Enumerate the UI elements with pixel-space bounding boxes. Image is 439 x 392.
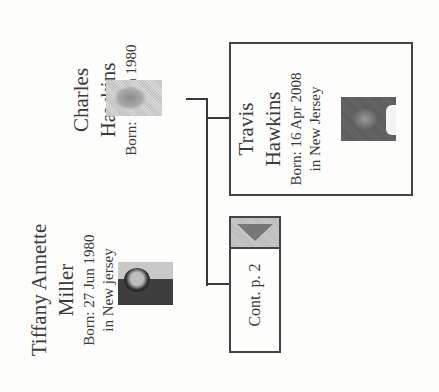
person-name-line1: Charles <box>68 0 95 210</box>
person-tiffany-photo <box>118 262 173 305</box>
photo-cutout <box>386 105 396 135</box>
person-charles-photo <box>106 80 162 116</box>
person-tiffany-text: Tiffany Annette Miller Born: 27 Jun 1980… <box>26 190 114 390</box>
person-name-line1: Tiffany Annette <box>26 190 53 390</box>
continuation-label: Cont. p. 2 <box>243 245 267 345</box>
person-travis-photo <box>341 97 396 141</box>
continuation-box[interactable]: Cont. p. 2 <box>229 216 281 353</box>
person-birthplace: in New jersey <box>99 190 117 390</box>
connector-travis <box>206 117 230 119</box>
triangle-down-icon <box>237 224 273 241</box>
connector-charles-horizontal <box>186 98 208 100</box>
person-travis-box[interactable]: Travis Hawkins Born: 16 Apr 2008 in New … <box>229 42 413 196</box>
person-name-line1: Travis <box>233 54 260 204</box>
person-travis-text: Travis Hawkins Born: 16 Apr 2008 in New … <box>233 54 319 204</box>
person-name-line2: Miller <box>53 190 80 390</box>
person-name-line2: Hawkins <box>260 54 287 204</box>
photo-face <box>124 268 150 292</box>
connector-continuation <box>206 283 230 285</box>
person-birthplace: in New Jersey <box>306 54 324 204</box>
connector-family-vertical <box>206 98 208 286</box>
person-birth: Born: 27 Jun 1980 <box>80 190 99 390</box>
person-birth: Born: 16 Apr 2008 <box>287 54 306 204</box>
